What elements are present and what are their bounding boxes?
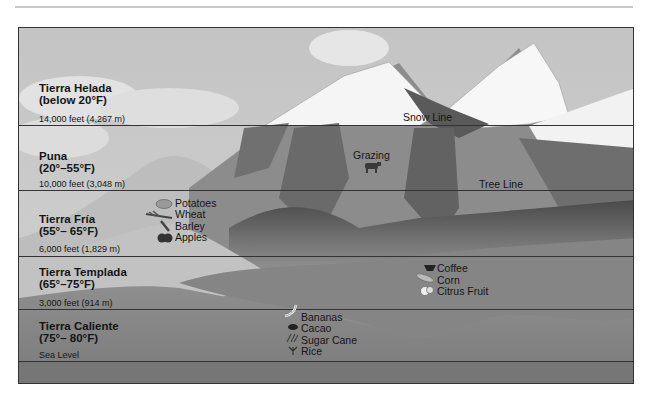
- crop-coffee: Coffee: [437, 263, 468, 274]
- altitude-zones-diagram: Tierra Helada (below 20°F) 14,000 feet (…: [18, 27, 634, 384]
- elevation-label-3000: 3,000 feet (914 m): [39, 298, 113, 308]
- zone-temp-puna: (20°–55°F): [39, 162, 95, 174]
- elevation-label-10000: 10,000 feet (3,048 m): [39, 179, 125, 189]
- crop-rice: Rice: [301, 346, 322, 357]
- citrus-icon: [419, 284, 435, 296]
- sugar-cane-icon: [285, 333, 299, 343]
- elevation-line-sea-level: [19, 361, 633, 362]
- zone-name-tierra-caliente: Tierra Caliente: [39, 320, 119, 332]
- top-rule: [15, 6, 633, 8]
- crop-cacao: Cacao: [301, 323, 331, 334]
- activity-grazing: Grazing: [353, 150, 390, 161]
- elevation-line-10000: [19, 190, 633, 191]
- snow-line-label: Snow Line: [403, 112, 452, 123]
- cacao-icon: [287, 323, 299, 331]
- zone-temp-tierra-helada: (below 20°F): [39, 94, 107, 106]
- zone-temp-tierra-caliente: (75°– 80°F): [39, 332, 98, 344]
- zone-name-tierra-helada: Tierra Helada: [39, 82, 112, 94]
- elevation-line-3000: [19, 309, 633, 310]
- elevation-label-6000: 6,000 feet (1,829 m): [39, 244, 120, 254]
- apples-icon: [157, 232, 173, 243]
- elevation-line-14000: [19, 125, 633, 126]
- zone-name-tierra-templada: Tierra Templada: [39, 266, 127, 278]
- cow-icon: [363, 161, 381, 173]
- zone-temp-tierra-templada: (65°–75°F): [39, 278, 95, 290]
- bananas-icon: [283, 304, 299, 318]
- corn-icon: [415, 273, 435, 283]
- crop-citrus-fruit: Citrus Fruit: [437, 286, 488, 297]
- barley-icon: [159, 220, 171, 232]
- crop-wheat: Wheat: [175, 209, 205, 220]
- potato-icon: [155, 199, 173, 209]
- elevation-label-sea-level: Sea Level: [39, 350, 79, 360]
- crop-apples: Apples: [175, 232, 207, 243]
- elevation-label-14000: 14,000 feet (4,267 m): [39, 114, 125, 124]
- zone-temp-tierra-fria: (55°– 65°F): [39, 225, 98, 237]
- rice-icon: [287, 345, 299, 356]
- tree-line-label: Tree Line: [479, 179, 523, 190]
- elevation-line-6000: [19, 256, 633, 257]
- zone-name-puna: Puna: [39, 150, 67, 162]
- coffee-icon: [423, 264, 437, 272]
- wheat-icon: [145, 210, 173, 220]
- zone-name-tierra-fria: Tierra Fría: [39, 213, 95, 225]
